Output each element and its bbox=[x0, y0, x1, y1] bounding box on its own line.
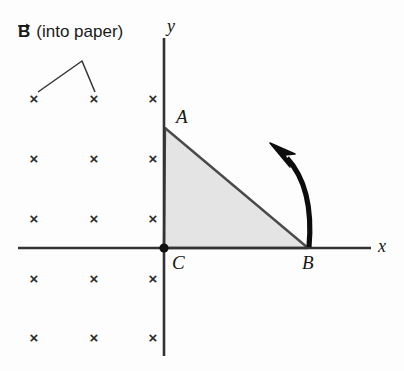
field-symbol-text: B bbox=[18, 22, 30, 41]
y-axis-label: y bbox=[167, 16, 175, 37]
field-note-text: (into paper) bbox=[36, 22, 123, 41]
vertex-label-c: C bbox=[172, 252, 185, 274]
field-marker-into-page: × bbox=[90, 330, 99, 345]
origin-point-marker bbox=[159, 243, 168, 252]
field-marker-into-page: × bbox=[30, 271, 39, 286]
field-marker-into-page: × bbox=[30, 91, 39, 106]
field-marker-into-page: × bbox=[149, 151, 158, 166]
diagram-canvas bbox=[0, 0, 404, 371]
field-marker-into-page: × bbox=[149, 271, 158, 286]
field-marker-into-page: × bbox=[90, 211, 99, 226]
physics-figure: B(into paper) ××××××××××××××× A B C x y bbox=[0, 0, 404, 371]
magnetic-field-label: B(into paper) bbox=[18, 22, 123, 42]
vertex-label-a: A bbox=[176, 106, 188, 128]
vector-b-symbol: B bbox=[18, 22, 31, 42]
field-marker-into-page: × bbox=[90, 271, 99, 286]
field-marker-into-page: × bbox=[149, 211, 158, 226]
field-marker-into-page: × bbox=[90, 151, 99, 166]
field-label-leader-lines bbox=[38, 61, 95, 92]
field-marker-into-page: × bbox=[30, 330, 39, 345]
field-marker-into-page: × bbox=[149, 91, 158, 106]
field-marker-into-page: × bbox=[90, 91, 99, 106]
field-marker-into-page: × bbox=[30, 151, 39, 166]
field-marker-into-page: × bbox=[30, 211, 39, 226]
vertex-label-b: B bbox=[302, 252, 314, 274]
x-axis-label: x bbox=[378, 236, 386, 257]
field-marker-into-page: × bbox=[149, 330, 158, 345]
